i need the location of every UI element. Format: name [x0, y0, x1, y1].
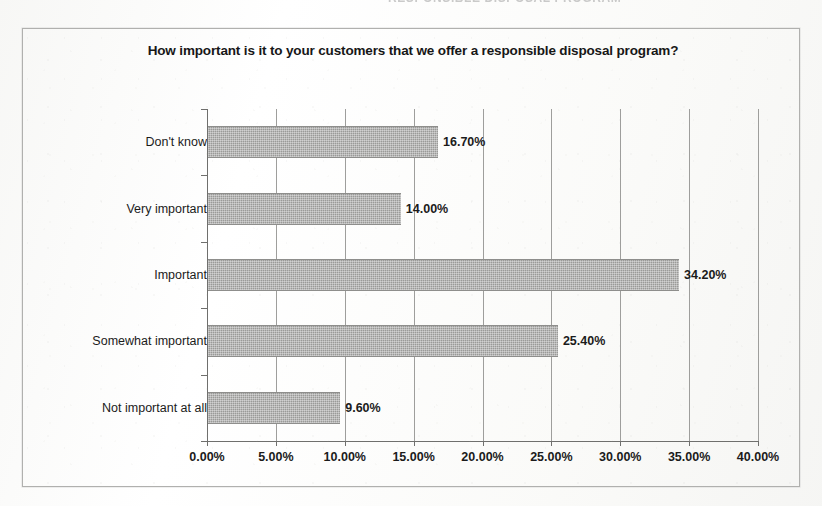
y-axis-tick [201, 242, 207, 243]
running-header-text: RESPONSIBLE DISPOSAL PROGRAM [388, 0, 621, 5]
x-axis-tick [689, 441, 690, 446]
plot-area [207, 109, 758, 441]
bar-value-label: 9.60% [345, 401, 380, 415]
bar-value-label: 14.00% [406, 202, 448, 216]
x-axis-tick-label: 40.00% [737, 450, 779, 464]
category-label: Don't know [31, 135, 207, 149]
bar [208, 259, 679, 291]
category-label: Not important at all [31, 401, 207, 415]
category-label: Somewhat important [31, 334, 207, 348]
y-axis-tick [201, 175, 207, 176]
bar-value-label: 34.20% [684, 268, 726, 282]
bar [208, 126, 438, 158]
x-axis-tick-label: 15.00% [392, 450, 434, 464]
bar [208, 325, 558, 357]
y-axis-tick [201, 441, 207, 442]
x-axis-tick [551, 441, 552, 446]
y-axis-tick [201, 308, 207, 309]
chart-frame: How important is it to your customers th… [22, 28, 800, 487]
x-axis-tick-label: 30.00% [599, 450, 641, 464]
x-axis-tick-label: 10.00% [324, 450, 366, 464]
x-axis-tick-label: 5.00% [258, 450, 293, 464]
bar-value-label: 25.40% [563, 334, 605, 348]
x-axis-tick [345, 441, 346, 446]
x-axis-tick-label: 20.00% [461, 450, 503, 464]
y-axis-tick [201, 109, 207, 110]
x-axis-tick [276, 441, 277, 446]
category-label: Important [31, 268, 207, 282]
chart-title: How important is it to your customers th… [63, 41, 763, 60]
x-axis-tick [207, 441, 208, 446]
x-axis-tick [414, 441, 415, 446]
y-axis-tick [201, 375, 207, 376]
category-axis-labels: Don't knowVery importantImportantSomewha… [31, 109, 207, 441]
x-axis-tick [620, 441, 621, 446]
x-axis-tick-label: 0.00% [189, 450, 224, 464]
x-axis-tick-label: 35.00% [668, 450, 710, 464]
running-header: RESPONSIBLE DISPOSAL PROGRAM [0, 0, 822, 9]
bar [208, 193, 401, 225]
category-label: Very important [31, 202, 207, 216]
x-axis-tick-label: 25.00% [530, 450, 572, 464]
bar [208, 392, 340, 424]
x-axis-tick [758, 441, 759, 446]
x-axis-tick [483, 441, 484, 446]
bar-value-label: 16.70% [443, 135, 485, 149]
gridline-vertical [758, 109, 759, 441]
